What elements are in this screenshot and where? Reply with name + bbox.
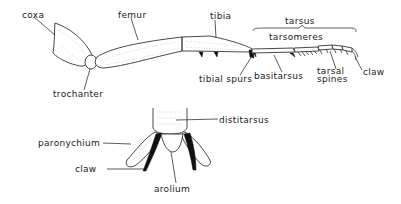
label-tarsomeres: tarsomeres [269,32,323,42]
label-tarsus: tarsus [285,16,315,26]
label-claw-pretarsus: claw [75,164,97,174]
tarsus-brace [253,25,356,32]
claw-leader [355,57,362,70]
tibial-spurs-leader [240,56,252,75]
pretarsus-drawing [103,108,218,183]
paronychium-leader [103,143,131,144]
label-paronychium: paronychium [38,138,100,148]
insect-leg-diagram: coxa trochanter femur tibia tarsus tarso… [0,0,401,204]
femur-leader [131,18,138,40]
label-arolium: arolium [154,184,190,194]
basitarsus-leader [274,55,282,72]
label-distitarsus: distitarsus [219,115,269,125]
trochanter-leader [84,69,90,90]
arolium-leader [171,152,176,183]
label-tibial-spurs: tibial spurs [199,74,252,84]
diagram-canvas: coxa trochanter femur tibia tarsus tarso… [0,0,401,204]
arolium-pad [161,134,183,152]
femur-segment [95,37,183,68]
label-tibia: tibia [210,11,231,21]
distitarsus-segment [153,108,187,134]
label-claw-leg: claw [363,67,385,77]
label-femur: femur [118,10,146,20]
leg-drawing [34,17,362,90]
label-basitarsus: basitarsus [254,71,303,81]
tibia-segment [182,36,252,52]
label-spines: spines [317,74,348,84]
tibia-leader [215,20,216,38]
label-coxa: coxa [22,10,44,20]
tarsomeres-segments [294,45,358,60]
basitarsus-segment [252,48,295,57]
label-trochanter: trochanter [53,89,103,99]
